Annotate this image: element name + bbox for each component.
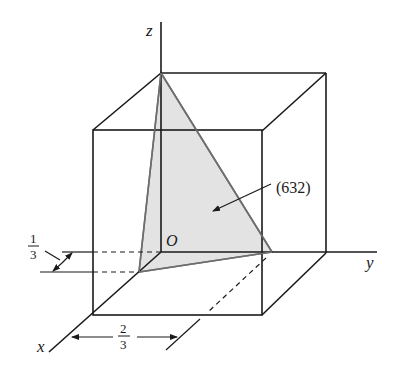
dimension-arrow [53, 263, 62, 271]
dimension-line [166, 319, 200, 350]
y-axis-label: y [364, 253, 374, 272]
cube-edge [93, 73, 161, 130]
dimension-arrow [62, 253, 72, 263]
origin-label: O [166, 232, 178, 249]
cube-diagram: z y x O (632) 1 3 2 3 [0, 0, 400, 378]
fraction-denominator: 3 [120, 337, 127, 352]
diagram-canvas: z y x O (632) 1 3 2 3 [0, 0, 400, 378]
cube-edge [262, 73, 326, 131]
fraction-denominator: 3 [30, 247, 37, 262]
plane-label: (632) [276, 179, 311, 197]
z-axis-label: z [145, 21, 153, 40]
leader-line [45, 251, 60, 260]
x-axis-label: x [36, 337, 45, 356]
fraction-numerator: 1 [30, 231, 37, 246]
cube-edge [262, 253, 326, 315]
fraction-numerator: 2 [120, 321, 127, 336]
dimension-dashed-line [208, 258, 266, 312]
miller-plane [139, 73, 272, 272]
